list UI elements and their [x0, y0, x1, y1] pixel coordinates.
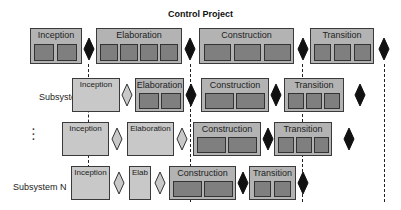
iteration-box [306, 93, 322, 109]
milestone-diamond-filled [271, 84, 281, 106]
subsystemN-inception-phase: Inception [71, 166, 110, 200]
milestone-diamond-filled [298, 172, 308, 194]
phase-label: Elab [130, 168, 150, 177]
control-transition-phase: Transition [310, 28, 374, 64]
subsystem-middle-transition-phase: Transition [274, 122, 332, 156]
phase-label: Inception [72, 168, 109, 177]
row-label-subsystem-n: Subsystem N [13, 182, 67, 192]
iteration-box [234, 44, 261, 61]
iteration-box [314, 137, 329, 153]
subsystemN-transition-phase: Transition [249, 166, 296, 200]
iteration-box [334, 44, 351, 61]
iteration-box [34, 44, 54, 61]
subsystemN-elaboration-phase: Elab [129, 166, 151, 200]
milestone-diamond-filled [355, 84, 365, 106]
phase-label: Elaboration [97, 30, 181, 40]
iteration-box [274, 181, 291, 197]
iteration-box [324, 93, 340, 109]
subsystem1-inception-phase: Inception [72, 78, 120, 112]
milestone-diamond-filled [185, 38, 195, 60]
control-construction-phase: Construction [199, 28, 294, 64]
milestone-diamond-hollow [177, 128, 187, 150]
phase-label: Construction [200, 30, 293, 40]
iteration-box [278, 137, 294, 153]
phase-label: Elaboration [128, 124, 173, 133]
iteration-box [236, 93, 265, 109]
sync-line-transition-end [384, 64, 385, 202]
milestone-diamond-filled [186, 84, 196, 106]
iteration-box [120, 44, 138, 61]
lifecycle-diagram: Control Project Subsystem 1 ··· Subsyste… [0, 0, 401, 210]
phase-label: Transition [285, 80, 343, 90]
milestone-diamond-hollow [155, 172, 165, 194]
phase-label: Inception [31, 30, 81, 40]
milestone-diamond-filled [84, 38, 94, 60]
phase-label: Construction [194, 124, 260, 134]
phase-label: Elaboration [136, 80, 183, 90]
phase-label: Inception [63, 124, 108, 133]
iteration-box [173, 181, 202, 197]
milestone-diamond-filled [263, 128, 273, 150]
subsystemN-construction-phase: Construction [169, 166, 236, 200]
control-elaboration-phase: Elaboration [96, 28, 182, 64]
milestone-diamond-hollow [114, 172, 124, 194]
iteration-box [354, 44, 371, 61]
milestone-diamond-filled [344, 128, 354, 150]
subsystem-middle-inception-phase: Inception [62, 122, 109, 156]
iteration-box [205, 93, 234, 109]
subsystem1-transition-phase: Transition [284, 78, 344, 112]
row-label-ellipsis: ··· [32, 127, 35, 142]
milestone-diamond-hollow [122, 84, 132, 106]
phase-label: Construction [202, 80, 268, 90]
iteration-box [288, 93, 304, 109]
iteration-box [264, 44, 291, 61]
iteration-box [228, 137, 257, 153]
phase-label: Transition [311, 30, 373, 40]
control-inception-phase: Inception [30, 28, 82, 64]
diagram-title: Control Project [0, 9, 401, 19]
iteration-box [100, 44, 118, 61]
phase-label: Transition [250, 168, 295, 178]
iteration-box [161, 93, 181, 109]
subsystem-middle-elaboration-phase: Elaboration [127, 122, 174, 156]
iteration-box [160, 44, 178, 61]
subsystem-middle-construction-phase: Construction [193, 122, 261, 156]
iteration-box [139, 93, 159, 109]
iteration-box [204, 44, 231, 61]
iteration-box [254, 181, 271, 197]
subsystem1-elaboration-phase: Elaboration [135, 78, 184, 112]
iteration-box [140, 44, 158, 61]
iteration-box [204, 181, 233, 197]
iteration-box [197, 137, 226, 153]
phase-label: Inception [73, 80, 119, 89]
subsystem1-construction-phase: Construction [201, 78, 269, 112]
iteration-box [314, 44, 331, 61]
iteration-box [57, 44, 77, 61]
milestone-diamond-hollow [112, 128, 122, 150]
milestone-diamond-filled [298, 38, 308, 60]
phase-label: Construction [170, 168, 235, 178]
phase-label: Transition [275, 124, 331, 134]
iteration-box [296, 137, 312, 153]
milestone-diamond-filled [238, 172, 248, 194]
milestone-diamond-filled [379, 38, 389, 60]
